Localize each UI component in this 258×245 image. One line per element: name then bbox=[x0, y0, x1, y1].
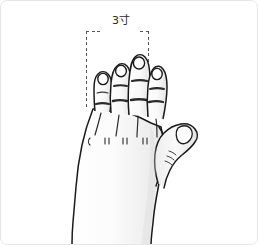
index-finger-crease-distal bbox=[150, 88, 164, 89]
measurement-label: 3寸 bbox=[101, 14, 141, 27]
index-finger-crease-proximal bbox=[149, 101, 163, 102]
illustration-frame: 3寸 bbox=[0, 0, 258, 245]
hand-illustration bbox=[1, 1, 257, 244]
middle-finger-crease-distal bbox=[132, 80, 147, 81]
little-finger bbox=[94, 72, 112, 112]
ring-finger-crease-distal bbox=[114, 85, 127, 86]
middle-finger-nail bbox=[133, 57, 144, 69]
little-finger-nail bbox=[98, 73, 108, 84]
middle-finger-crease-proximal bbox=[131, 99, 147, 100]
index-finger-nail bbox=[152, 68, 162, 79]
ring-finger-crease-proximal bbox=[113, 100, 127, 101]
ring-finger-nail bbox=[116, 65, 127, 77]
little-finger-crease-proximal bbox=[96, 103, 109, 104]
thumbnail bbox=[176, 126, 192, 144]
index-finger bbox=[147, 66, 167, 119]
